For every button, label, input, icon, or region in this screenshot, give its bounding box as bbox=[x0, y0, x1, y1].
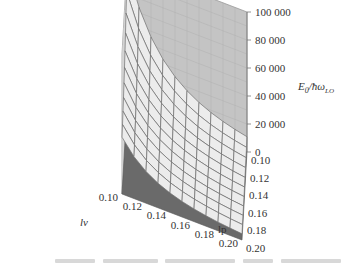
caption-fragment bbox=[281, 259, 341, 263]
lv-tick-label: 0.20 bbox=[219, 237, 239, 249]
lp-tick-label: 0.18 bbox=[247, 224, 267, 236]
lv-tick-label: 0.14 bbox=[147, 209, 167, 221]
z-axis-label: E0/ħωLO bbox=[297, 80, 334, 95]
lv-tick-label: 0.16 bbox=[171, 219, 191, 231]
z-tick-label: 100 000 bbox=[255, 6, 291, 18]
figure-caption-cropped bbox=[55, 257, 347, 265]
lp-tick-label: 0.10 bbox=[251, 154, 271, 166]
lp-axis-ticks: 0.100.120.140.160.180.20 bbox=[246, 154, 271, 254]
caption-fragment bbox=[165, 259, 235, 263]
lv-tick-label: 0.12 bbox=[123, 200, 142, 212]
lp-tick-label: 0.12 bbox=[250, 172, 269, 184]
lv-axis-label: lv bbox=[80, 216, 88, 228]
z-axis-ticks: 020 00040 00060 00080 000100 000 bbox=[247, 6, 291, 158]
z-tick-label: 40 000 bbox=[255, 90, 286, 102]
lp-axis-label: lp bbox=[218, 223, 227, 235]
caption-fragment bbox=[243, 259, 273, 263]
z-tick-label: 20 000 bbox=[255, 118, 286, 130]
surface-plot: 020 00040 00060 00080 000100 000 0.100.1… bbox=[0, 0, 347, 265]
z-tick-label: 80 000 bbox=[255, 34, 286, 46]
lp-tick-label: 0.16 bbox=[248, 207, 268, 219]
lp-tick-label: 0.14 bbox=[249, 189, 269, 201]
lv-tick-label: 0.18 bbox=[195, 228, 215, 240]
lp-tick-label: 0.20 bbox=[246, 242, 266, 254]
z-tick-label: 60 000 bbox=[255, 62, 286, 74]
caption-fragment bbox=[103, 259, 158, 263]
lv-tick-label: 0.10 bbox=[99, 191, 119, 203]
caption-fragment bbox=[55, 259, 95, 263]
